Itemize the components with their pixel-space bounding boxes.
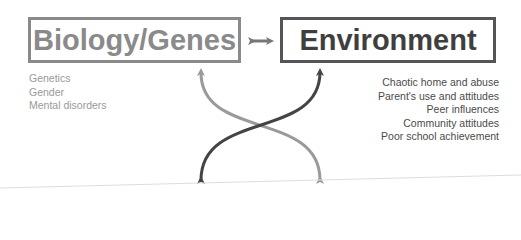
- environment-factor: Chaotic home and abuse: [378, 76, 499, 90]
- biology-factor: Genetics: [29, 72, 107, 86]
- biology-factor: Mental disorders: [29, 99, 107, 113]
- biology-factors-list: Genetics Gender Mental disorders: [29, 72, 107, 113]
- environment-factor: Parent's use and attitudes: [378, 90, 499, 104]
- biology-factor: Gender: [29, 86, 107, 100]
- environment-factor: Poor school achievement: [378, 130, 499, 144]
- environment-factor: Community attitudes: [378, 117, 499, 131]
- environment-factors-list: Chaotic home and abuse Parent's use and …: [378, 76, 499, 144]
- baseline: [0, 175, 521, 188]
- dark-arrow: [201, 72, 320, 180]
- environment-factor: Peer influences: [378, 103, 499, 117]
